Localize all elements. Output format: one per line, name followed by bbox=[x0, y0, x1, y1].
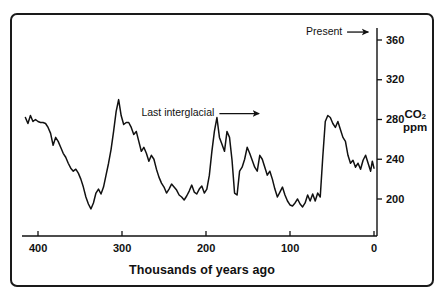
chart-annotation-arrows bbox=[219, 32, 368, 113]
chart-figure: 200240280320360 4003002001000 PresentLas… bbox=[0, 0, 445, 302]
annotation-label: Present bbox=[306, 26, 342, 37]
annotation-label: Last interglacial bbox=[141, 107, 214, 118]
y-tick-label: 200 bbox=[386, 194, 404, 205]
y-tick-label: 360 bbox=[386, 35, 404, 46]
x-tick-label: 100 bbox=[281, 243, 299, 254]
x-tick-label: 200 bbox=[197, 243, 215, 254]
y-tick-label: 320 bbox=[386, 74, 404, 85]
x-axis-title: Thousands of years ago bbox=[129, 264, 275, 277]
y-axis-title: CO2 ppm bbox=[403, 108, 427, 134]
x-tick-label: 300 bbox=[113, 243, 131, 254]
y-tick-label: 280 bbox=[386, 114, 404, 125]
x-tick-label: 0 bbox=[371, 243, 377, 254]
x-tick-label: 400 bbox=[29, 243, 47, 254]
y-tick-label: 240 bbox=[386, 154, 404, 165]
y-axis-title-ppm: ppm bbox=[403, 121, 427, 133]
chart-axes bbox=[22, 28, 377, 236]
chart-plot-area bbox=[0, 0, 445, 302]
y-axis-title-co2: CO2 bbox=[404, 108, 425, 120]
